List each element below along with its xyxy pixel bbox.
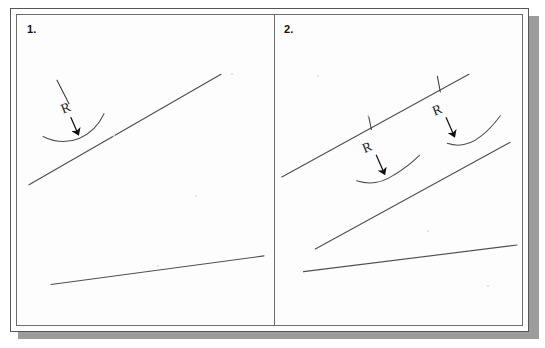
panel-two-left-leader-arrow [376,155,383,171]
panel-two-bottom-slope-line [304,245,518,272]
figure-outer-frame: 1. [10,8,529,332]
panel-two: 2. [274,15,522,325]
scan-speck [195,195,197,197]
panel-two-radius-curve-left [357,155,420,183]
panel-two-middle-slope-line [315,142,510,249]
panel-one-lower-slope-line [51,256,264,285]
scan-speck [157,265,159,267]
scan-speck [487,285,489,287]
panel-one-leader-arrow [71,118,77,132]
panel-one: 1. [17,15,274,325]
panel-one-artwork: R [17,15,274,325]
figure-stage: 1. [0,0,545,348]
figure-inner-frame: 1. [16,14,523,326]
panel-two-left-leader-tick [368,116,371,130]
panel-two-upper-slope-line [282,74,469,177]
scan-speck [427,230,429,232]
panel-one-radius-label: R [58,99,73,117]
panel-two-artwork: R R [274,15,522,325]
panel-two-radius-curve-right [447,116,500,145]
panel-two-radius-label-left: R [360,138,375,156]
panel-two-radius-label-right: R [430,101,445,119]
panel-two-right-leader-tick [437,76,440,92]
scan-speck [231,73,233,75]
scan-speck [113,135,115,137]
scan-speck [367,115,369,117]
panel-one-upper-slope-line [29,74,221,185]
panel-two-right-leader-arrow [446,118,453,134]
scan-speck [317,75,319,77]
panel-one-radius-curve [43,114,104,142]
